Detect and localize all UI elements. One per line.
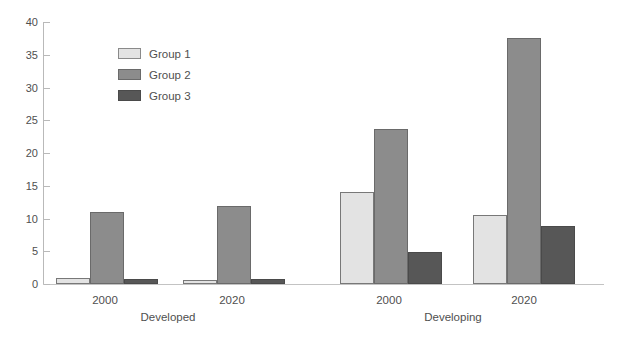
bar-developed-2000-group-2[interactable] <box>90 212 124 284</box>
legend-label-group-3: Group 3 <box>149 90 191 102</box>
bar-developed-2020-group-2[interactable] <box>217 206 251 284</box>
y-tick-label: 15 <box>14 181 38 192</box>
bar-developing-2020-group-1[interactable] <box>473 215 507 284</box>
y-tick-label: 40 <box>14 17 38 28</box>
x-group-label-developing: Developing <box>413 311 493 324</box>
y-tick-mark <box>44 120 50 121</box>
y-tick-label: 5 <box>14 246 38 257</box>
legend-item-group-3[interactable]: Group 3 <box>118 87 191 104</box>
bar-developed-2000-group-1[interactable] <box>56 278 90 284</box>
y-tick-mark <box>44 55 50 56</box>
legend-swatch-icon-group-1 <box>118 48 141 59</box>
y-tick-label: 30 <box>14 83 38 94</box>
y-tick-label: 0 <box>14 279 38 290</box>
y-tick-mark <box>44 22 50 23</box>
x-group-label-developed: Developed <box>128 311 208 324</box>
y-tick-mark <box>44 153 50 154</box>
bar-chart: 4035302520151050 2000 2020 2000 2020 Dev… <box>0 0 617 337</box>
legend-item-group-1[interactable]: Group 1 <box>118 45 191 62</box>
x-axis-baseline <box>43 284 604 285</box>
y-tick-mark <box>44 251 50 252</box>
x-tick-label-developing-2020: 2020 <box>487 294 561 307</box>
bar-developing-2000-group-3[interactable] <box>408 252 442 284</box>
bar-developing-2000-group-2[interactable] <box>374 129 408 284</box>
bar-developed-2000-group-3[interactable] <box>124 279 158 284</box>
y-tick-mark <box>44 219 50 220</box>
bar-developing-2000-group-1[interactable] <box>340 192 374 284</box>
x-tick-label-developed-2000: 2000 <box>68 294 142 307</box>
legend-label-group-2: Group 2 <box>149 69 191 81</box>
x-tick-label-developed-2020: 2020 <box>195 294 269 307</box>
bar-developing-2020-group-3[interactable] <box>541 226 575 284</box>
clipped-caption <box>0 331 617 337</box>
y-tick-label: 20 <box>14 148 38 159</box>
bar-developing-2020-group-2[interactable] <box>507 38 541 284</box>
legend-item-group-2[interactable]: Group 2 <box>118 66 191 83</box>
y-tick-label: 25 <box>14 115 38 126</box>
legend-swatch-icon-group-2 <box>118 69 141 80</box>
plot-area: 4035302520151050 2000 2020 2000 2020 Dev… <box>0 0 617 337</box>
y-tick-label: 35 <box>14 50 38 61</box>
legend-label-group-1: Group 1 <box>149 48 191 60</box>
y-tick-mark <box>44 88 50 89</box>
x-tick-label-developing-2000: 2000 <box>352 294 426 307</box>
y-tick-mark <box>44 284 50 285</box>
legend: Group 1 Group 2 Group 3 <box>118 45 191 108</box>
bar-developed-2020-group-1[interactable] <box>183 280 217 284</box>
bar-developed-2020-group-3[interactable] <box>251 279 285 284</box>
y-tick-label: 10 <box>14 214 38 225</box>
y-tick-mark <box>44 186 50 187</box>
legend-swatch-icon-group-3 <box>118 90 141 101</box>
